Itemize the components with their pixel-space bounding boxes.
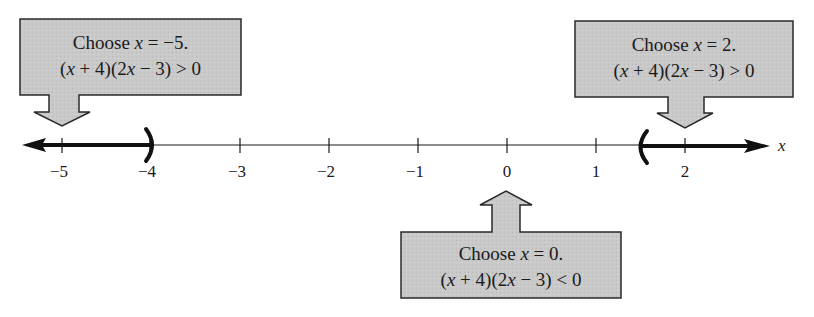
tick-label-2: 2 [665, 162, 705, 182]
callout-bottom-line2: (x + 4)(2x − 3) < 0 [401, 267, 621, 293]
tick-label-neg1: −1 [395, 162, 435, 182]
callout-bottom-text: Choose x = 0. (x + 4)(2x − 3) < 0 [401, 241, 621, 293]
tick-label-0: 0 [487, 162, 527, 182]
axis-variable-label: x [778, 136, 786, 156]
callout-left-text: Choose x = −5. (x + 4)(2x − 3) > 0 [20, 30, 241, 82]
tick-label-neg2: −2 [306, 162, 346, 182]
callout-right-text: Choose x = 2. (x + 4)(2x − 3) > 0 [575, 32, 793, 84]
tick-label-neg3: −3 [217, 162, 257, 182]
callout-left-line2: (x + 4)(2x − 3) > 0 [20, 56, 241, 82]
callout-right-line1: Choose x = 2. [575, 32, 793, 58]
tick-label-1: 1 [576, 162, 616, 182]
callout-left-line1: Choose x = −5. [20, 30, 241, 56]
callout-bottom-line1: Choose x = 0. [401, 241, 621, 267]
tick-label-neg4: −4 [127, 162, 167, 182]
callout-right-line2: (x + 4)(2x − 3) > 0 [575, 58, 793, 84]
tick-label-neg5: −5 [39, 162, 79, 182]
